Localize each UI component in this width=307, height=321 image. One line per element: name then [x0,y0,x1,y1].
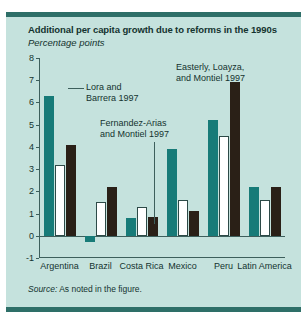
bar[interactable] [96,202,106,235]
bar-group [167,58,199,258]
leader-line-fernandez [154,142,155,224]
y-tick-mark [36,169,39,170]
bar[interactable] [167,149,177,236]
y-tick-mark [36,102,39,103]
bar[interactable] [85,236,95,243]
leader-line-lora [68,88,84,89]
y-tick-label: 0 [29,231,34,241]
bar[interactable] [55,165,65,236]
bar[interactable] [271,187,281,236]
bar[interactable] [208,120,218,236]
bar[interactable] [260,200,270,236]
y-tick-label: 2 [29,186,34,196]
bar[interactable] [219,136,229,236]
bar[interactable] [249,187,259,236]
y-axis-line [39,58,40,258]
chart-subtitle: Percentage points [28,37,105,49]
x-tick-label: Latin America [237,261,293,272]
bar[interactable] [107,187,117,236]
bottom-rule [6,307,301,312]
bar-group [249,58,281,258]
source-text: As noted in the figure. [57,284,142,294]
y-tick-mark [36,58,39,59]
annotation-fernandez: Fernandez-Arias and Montiel 1997 [100,118,169,140]
source-label: Source: [28,284,57,294]
top-rule [6,12,301,17]
figure-panel: Additional per capita growth due to refo… [6,12,301,312]
y-tick-label: 7 [29,75,34,85]
y-tick-label: 4 [29,142,34,152]
y-tick-label: 3 [29,164,34,174]
bar[interactable] [44,96,54,236]
bar[interactable] [189,211,199,235]
bar-group [208,58,240,258]
bar[interactable] [230,82,240,235]
chart-title: Additional per capita growth due to refo… [28,24,288,36]
bar[interactable] [178,200,188,236]
y-tick-label: 6 [29,97,34,107]
bar[interactable] [126,218,136,236]
bar[interactable] [66,145,76,236]
y-tick-mark [36,125,39,126]
y-tick-mark [36,214,39,215]
y-tick-mark [36,258,39,259]
bar[interactable] [148,217,158,236]
y-tick-mark [36,191,39,192]
y-tick-mark [36,147,39,148]
y-tick-label: 5 [29,120,34,130]
y-tick-mark [36,80,39,81]
bar[interactable] [137,207,147,236]
source-note: Source: As noted in the figure. [28,284,142,294]
y-tick-mark [36,236,39,237]
annotation-lora: Lora and Barrera 1997 [86,82,139,104]
y-tick-label: 8 [29,53,34,63]
y-tick-label: 1 [29,209,34,219]
annotation-easterly: Easterly, Loayza, and Montiel 1997 [176,62,245,84]
